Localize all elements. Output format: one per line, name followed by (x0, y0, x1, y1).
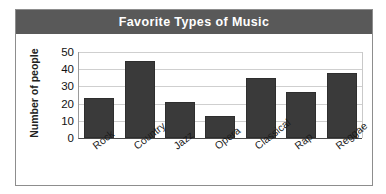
y-axis-tick-label: 50 (61, 46, 74, 58)
chart-title: Favorite Types of Music (119, 15, 270, 29)
plot-wrapper: Number of people 01020304050 RockCountry… (16, 34, 372, 185)
y-axis-tick-label: 0 (68, 132, 74, 144)
y-axis-tick-label: 10 (61, 115, 74, 127)
plot-area (78, 52, 362, 139)
y-axis-title-text: Number of people (29, 50, 41, 138)
chart-frame: Favorite Types of Music Number of people… (15, 9, 373, 186)
chart-figure: Favorite Types of Music Number of people… (0, 0, 386, 194)
chart-title-band: Favorite Types of Music (16, 10, 372, 34)
y-axis-tick-label: 20 (61, 98, 74, 110)
y-axis-tick-labels: 01020304050 (52, 52, 74, 138)
bar-rap (286, 92, 316, 138)
y-axis-tick-label: 30 (61, 80, 74, 92)
x-axis-tick-labels: RockCountryJazzOperaClassicalRapReggae (78, 140, 361, 184)
bar-series (79, 52, 362, 138)
y-axis-title: Number of people (22, 48, 48, 140)
y-axis-tick-label: 40 (61, 63, 74, 75)
